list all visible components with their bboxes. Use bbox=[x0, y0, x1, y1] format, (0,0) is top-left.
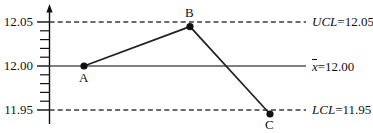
center-label-value: =12.00 bbox=[318, 59, 355, 74]
ucl-label: UCL=12.05 bbox=[312, 14, 373, 30]
x-bar-overline-icon bbox=[312, 59, 317, 60]
data-point-b-label: B bbox=[185, 5, 194, 21]
data-point-a[interactable] bbox=[80, 62, 87, 69]
y-axis-arrow-icon bbox=[46, 4, 52, 13]
lcl-label: LCL=11.95 bbox=[312, 102, 371, 118]
center-line-label: x=12.00 bbox=[312, 58, 354, 75]
data-series-line bbox=[84, 27, 270, 114]
data-point-a-label: A bbox=[79, 70, 88, 86]
ucl-label-value: =12.05 bbox=[337, 14, 373, 29]
data-point-b[interactable] bbox=[186, 23, 193, 30]
y-tick-label-center: 12.00 bbox=[0, 58, 33, 74]
y-tick-label-lower: 11.95 bbox=[0, 102, 33, 118]
y-axis-major-ticks bbox=[37, 22, 50, 110]
data-point-c-label: C bbox=[265, 117, 274, 133]
control-chart: 12.05 12.00 11.95 UCL=12.05 x=12.00 LCL=… bbox=[0, 0, 373, 133]
y-tick-label-upper: 12.05 bbox=[0, 14, 33, 30]
lcl-label-value: =11.95 bbox=[335, 102, 371, 117]
ucl-label-name: UCL bbox=[312, 14, 337, 29]
center-label-name: x bbox=[312, 59, 318, 74]
lcl-label-name: LCL bbox=[312, 102, 335, 117]
x-bar-symbol: x bbox=[312, 58, 318, 75]
